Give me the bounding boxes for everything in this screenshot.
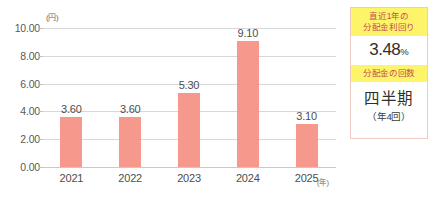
y-axis-unit-label: (円) [46,11,58,22]
frequency-value: 四半期 [351,86,427,108]
bar-group: 3.60 [101,28,160,167]
y-tick-label: 8.00 [0,50,40,62]
y-tick-label: 0.00 [0,161,40,173]
yield-value-box: 3.48% [351,36,427,65]
bar-value-label: 3.60 [61,103,82,115]
bar-value-label: 5.30 [179,79,200,91]
x-tick-label: 2021 [42,172,101,184]
frequency-header: 分配金の回数 [351,65,427,82]
bar-value-label: 9.10 [237,27,258,39]
gridline [42,167,336,168]
x-tick-label: 2024 [218,172,277,184]
bar [296,124,318,167]
frequency-value-box: 四半期 （年4回） [351,82,427,128]
bar [60,117,82,167]
y-tick-label: 10.00 [0,22,40,34]
frequency-header-line-1: 分配金の回数 [352,68,426,79]
bar-group: 5.30 [160,28,219,167]
y-tick-label: 4.00 [0,105,40,117]
x-axis-unit-label: (年) [317,176,329,187]
plot-area: 3.603.605.309.103.10 [42,28,336,167]
x-tick-label: 2022 [101,172,160,184]
bar [119,117,141,167]
yield-header-line-1: 直近1年の [352,11,426,22]
bar-value-label: 3.10 [296,110,317,122]
y-axis-tick-labels: 10.008.006.004.002.000.00 [0,0,40,202]
x-tick-label: 2023 [160,172,219,184]
dividend-chart-widget: (円) 10.008.006.004.002.000.00 3.603.605.… [0,0,434,202]
bar-group: 3.10 [277,28,336,167]
bar-group: 3.60 [42,28,101,167]
frequency-sub-label: （年4回） [351,109,427,123]
y-tick-label: 6.00 [0,78,40,90]
y-tick-label: 2.00 [0,133,40,145]
yield-header: 直近1年の 分配金利回り [351,8,427,36]
bar-chart: (円) 10.008.006.004.002.000.00 3.603.605.… [0,0,344,202]
yield-header-line-2: 分配金利回り [352,22,426,33]
bar-value-label: 3.60 [120,103,141,115]
bar [237,41,259,167]
bar-group: 9.10 [218,28,277,167]
bar [178,93,200,167]
yield-value: 3.48 [369,40,400,59]
y-tick-mark [38,167,43,168]
yield-unit: % [400,46,408,57]
fund-info-card: 直近1年の 分配金利回り 3.48% 分配金の回数 四半期 （年4回） [350,7,428,139]
